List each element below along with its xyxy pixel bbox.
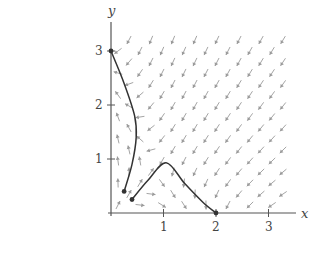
- field-arrow-icon: [236, 191, 242, 198]
- field-arrow-icon: [193, 102, 198, 110]
- field-arrow-icon: [171, 102, 176, 110]
- trajectories: [109, 49, 219, 216]
- field-arrow-icon: [204, 113, 209, 121]
- field-arrow-icon: [149, 80, 154, 88]
- field-arrow-icon: [160, 91, 165, 99]
- field-arrow-icon: [148, 103, 154, 110]
- field-arrow-icon: [182, 69, 186, 77]
- field-arrow-icon: [149, 58, 153, 66]
- field-arrow-icon: [204, 179, 208, 187]
- field-arrow-icon: [281, 36, 286, 44]
- field-arrow-icon: [215, 58, 219, 66]
- field-arrow-icon: [226, 69, 231, 77]
- field-arrow-icon: [147, 148, 156, 152]
- field-arrow-icon: [127, 146, 131, 155]
- field-arrow-icon: [269, 158, 275, 164]
- x-tick-label-3: 3: [265, 220, 273, 234]
- field-arrow-icon: [204, 157, 209, 165]
- field-arrow-icon: [280, 80, 285, 87]
- field-arrow-icon: [226, 201, 230, 209]
- y-tick-label-2: 2: [95, 98, 103, 112]
- field-arrow-icon: [126, 59, 132, 66]
- field-arrow-icon: [182, 157, 186, 165]
- field-arrow-icon: [116, 201, 120, 209]
- field-arrow-icon: [269, 113, 275, 120]
- field-arrow-icon: [193, 146, 198, 154]
- y-tick-label-1: 1: [95, 152, 103, 166]
- field-arrow-icon: [225, 179, 230, 186]
- field-arrow-icon: [237, 102, 242, 110]
- field-arrow-icon: [280, 147, 286, 153]
- field-arrow-icon: [259, 36, 264, 44]
- field-arrow-icon: [182, 135, 187, 143]
- field-arrow-icon: [247, 135, 253, 142]
- field-arrow-icon: [193, 124, 198, 132]
- field-arrow-icon: [116, 113, 120, 121]
- field-arrow-icon: [247, 158, 253, 165]
- field-arrow-icon: [247, 202, 253, 208]
- direction-field: [114, 36, 287, 210]
- field-arrow-icon: [280, 125, 286, 132]
- field-arrow-icon: [136, 115, 145, 119]
- field-arrow-icon: [127, 36, 131, 44]
- field-arrow-icon: [193, 58, 197, 66]
- field-arrow-icon: [236, 124, 241, 131]
- field-arrow-icon: [125, 82, 133, 86]
- field-arrow-icon: [214, 146, 219, 153]
- field-arrow-icon: [258, 124, 264, 131]
- phase-portrait: x y 1 2 3 1 2 3: [0, 0, 324, 261]
- field-arrow-icon: [138, 47, 142, 55]
- right-trajectory: [132, 163, 216, 213]
- field-arrow-icon: [149, 36, 153, 44]
- field-arrow-icon: [115, 91, 120, 98]
- field-arrow-icon: [270, 47, 275, 55]
- field-arrow-icon: [138, 157, 142, 166]
- field-arrow-icon: [258, 191, 265, 197]
- field-arrow-icon: [137, 136, 144, 142]
- field-arrow-icon: [136, 203, 145, 207]
- field-arrow-icon: [225, 157, 230, 164]
- left-trajectory-start-dot: [109, 49, 114, 54]
- field-arrow-icon: [237, 58, 242, 66]
- field-arrow-icon: [204, 47, 208, 55]
- field-arrow-icon: [279, 191, 286, 196]
- field-arrow-icon: [248, 69, 253, 77]
- field-arrow-icon: [247, 180, 253, 186]
- field-arrow-icon: [269, 180, 276, 186]
- field-arrow-icon: [147, 192, 156, 196]
- field-arrow-icon: [171, 124, 176, 132]
- field-arrow-icon: [268, 202, 275, 207]
- field-arrow-icon: [116, 157, 120, 166]
- field-arrow-icon: [127, 190, 132, 198]
- field-arrow-icon: [193, 168, 197, 176]
- field-arrow-icon: [269, 136, 275, 143]
- y-axis-label: y: [107, 3, 116, 18]
- field-arrow-icon: [204, 135, 209, 143]
- field-arrow-icon: [258, 147, 264, 154]
- field-arrow-icon: [182, 91, 186, 99]
- field-arrow-icon: [226, 91, 231, 99]
- field-arrow-icon: [237, 36, 241, 44]
- x-tick-label-1: 1: [160, 220, 168, 234]
- x-axis-label: x: [301, 206, 309, 221]
- field-arrow-icon: [159, 135, 164, 142]
- field-arrow-icon: [236, 169, 242, 176]
- field-arrow-icon: [182, 201, 187, 209]
- field-arrow-icon: [160, 69, 164, 77]
- right-trajectory-end-dot: [214, 211, 219, 216]
- field-arrow-icon: [147, 125, 154, 131]
- field-arrow-icon: [280, 102, 286, 109]
- field-arrow-icon: [215, 190, 219, 198]
- field-arrow-icon: [193, 80, 197, 88]
- field-arrow-icon: [138, 179, 143, 187]
- field-arrow-icon: [127, 124, 132, 132]
- field-arrow-icon: [171, 58, 175, 66]
- field-arrow-icon: [160, 47, 164, 55]
- field-arrow-icon: [137, 69, 142, 76]
- field-arrow-icon: [114, 48, 121, 53]
- left-trajectory-end-dot: [122, 189, 127, 194]
- field-arrow-icon: [137, 92, 144, 98]
- field-arrow-icon: [158, 203, 166, 208]
- field-arrow-icon: [215, 102, 220, 110]
- field-arrow-icon: [270, 69, 275, 77]
